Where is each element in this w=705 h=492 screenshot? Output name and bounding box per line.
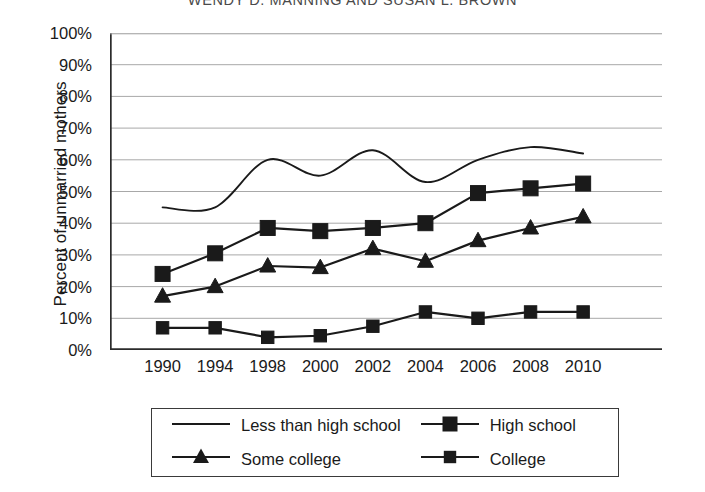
data-point-marker — [523, 181, 538, 196]
legend-entry[interactable]: High school — [401, 413, 618, 439]
figure-chart: Percent of unmarried mothers 0%10%20%30%… — [0, 0, 705, 492]
data-point-marker — [418, 216, 433, 231]
data-point-marker — [419, 306, 431, 318]
legend-label: Some college — [241, 450, 341, 469]
plot-svg — [110, 33, 662, 350]
data-point-marker — [577, 306, 589, 318]
legend-entry[interactable]: Less than high school — [152, 413, 401, 439]
y-axis-tick-label: 40% — [59, 214, 92, 233]
legend-marker-square-small-icon — [419, 446, 481, 472]
data-point-marker — [575, 208, 591, 222]
data-point-marker — [313, 224, 328, 239]
data-point-marker — [314, 330, 326, 342]
x-axis-tick-label: 2006 — [460, 357, 497, 376]
y-axis-tick-labels: 0%10%20%30%40%50%60%70%80%90%100% — [30, 33, 98, 350]
y-axis-tick-label: 50% — [59, 182, 92, 201]
x-axis-tick-label: 2004 — [407, 357, 444, 376]
x-axis-tick-labels: 199019941998200020022004200620082010 — [0, 357, 705, 383]
data-point-marker — [365, 220, 380, 235]
legend-marker-square-icon — [419, 413, 481, 439]
series-line — [163, 147, 584, 211]
data-point-marker — [472, 312, 484, 324]
y-axis-tick-label: 80% — [59, 87, 92, 106]
data-point-marker — [156, 322, 168, 334]
data-point-marker — [208, 246, 223, 261]
y-axis-tick-label: 100% — [50, 24, 92, 43]
data-series-layer — [155, 147, 592, 344]
legend-label: High school — [490, 416, 576, 435]
data-point-marker — [576, 176, 591, 191]
legend-entry[interactable]: Some college — [152, 446, 401, 472]
data-point-marker — [260, 258, 276, 272]
y-axis-tick-label: 70% — [59, 119, 92, 138]
data-point-marker — [471, 186, 486, 201]
data-point-marker — [367, 320, 379, 332]
legend-label: College — [490, 450, 546, 469]
y-axis-tick-label: 90% — [59, 55, 92, 74]
series-4 — [156, 306, 589, 344]
data-point-marker — [155, 266, 170, 281]
x-axis-tick-label: 1994 — [197, 357, 234, 376]
chart-legend: Less than high schoolHigh schoolSome col… — [151, 408, 619, 477]
series-1 — [163, 147, 584, 211]
y-axis-tick-label: 10% — [59, 309, 92, 328]
data-point-marker — [209, 322, 221, 334]
y-axis-tick-label: 20% — [59, 277, 92, 296]
x-axis-tick-label: 1990 — [144, 357, 181, 376]
x-axis-tick-label: 1998 — [249, 357, 286, 376]
data-point-marker — [365, 240, 381, 254]
x-axis-tick-label: 2000 — [302, 357, 339, 376]
legend-marker-none-icon — [170, 413, 232, 439]
legend-marker-triangle-icon — [170, 446, 232, 472]
x-axis-tick-label: 2008 — [512, 357, 549, 376]
x-axis-tick-label: 2010 — [565, 357, 602, 376]
data-point-marker — [262, 331, 274, 343]
plot-area — [110, 33, 662, 350]
x-axis-tick-label: 2002 — [354, 357, 391, 376]
data-point-marker — [524, 306, 536, 318]
legend-entry[interactable]: College — [401, 446, 618, 472]
data-point-marker — [260, 220, 275, 235]
legend-label: Less than high school — [241, 416, 401, 435]
y-axis-tick-label: 30% — [59, 245, 92, 264]
y-axis-tick-label: 60% — [59, 150, 92, 169]
